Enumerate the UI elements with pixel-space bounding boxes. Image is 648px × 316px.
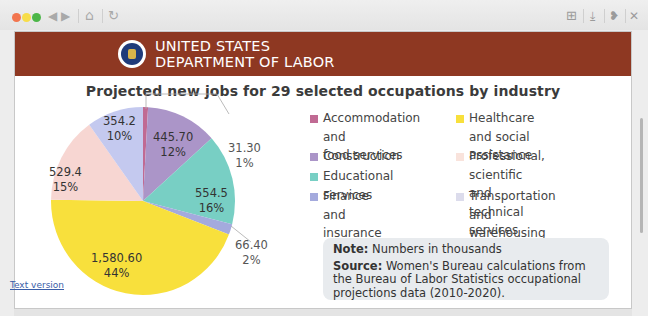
legend-swatch-educational — [310, 173, 318, 181]
slice-label-transportation: 354.2 10% — [103, 114, 136, 144]
reload-icon[interactable]: ↻ — [108, 8, 119, 24]
percent-label: 2% — [235, 253, 268, 268]
page-viewport: UNITED STATES DEPARTMENT OF LABOR Projec… — [14, 31, 632, 309]
browser-window: ◀ ▶ ⌂ ↻ ⊞ ⤓ ❥ ✕ UNITED STATES DEPARTMENT… — [0, 0, 648, 316]
legend-label: Professional, scientific — [469, 147, 545, 184]
text-version-link[interactable]: Text version — [10, 280, 64, 290]
legend-swatch-transportation — [456, 193, 464, 201]
legend-item-finance: Finance and insurance — [323, 187, 382, 243]
download-icon[interactable]: ⤓ — [590, 9, 595, 23]
home-icon[interactable]: ⌂ — [85, 7, 94, 23]
note-label: Note: — [333, 242, 368, 256]
source-line: Source: Women's Bureau calculations from… — [333, 260, 599, 301]
chart-note-box: Note: Numbers in thousands Source: Women… — [323, 238, 609, 300]
slice-label-educational: 554.5 16% — [195, 186, 228, 216]
note-text: Numbers in thousands — [368, 242, 501, 256]
legend-item-transportation: Transportation and warehousing — [469, 187, 556, 243]
legend-label: Finance and — [323, 187, 382, 224]
back-arrow-icon[interactable]: ◀ — [48, 8, 57, 24]
percent-label: 10% — [103, 129, 136, 144]
percent-label: 1% — [228, 156, 261, 171]
window-maximize-button[interactable] — [32, 13, 41, 22]
legend-swatch-professional — [456, 153, 464, 161]
percent-label: 44% — [91, 266, 142, 281]
value-label: 1,580.60 — [91, 251, 142, 266]
value-label: 354.2 — [103, 114, 136, 129]
note-line: Note: Numbers in thousands — [333, 243, 599, 257]
window-bottom-edge — [14, 309, 632, 316]
window-minimize-button[interactable] — [22, 13, 31, 22]
slice-label-healthcare: 1,580.60 44% — [91, 251, 142, 281]
extensions-icon[interactable]: ❥ — [609, 9, 619, 23]
window-close-button[interactable] — [12, 13, 21, 22]
source-label: Source: — [333, 259, 382, 273]
forward-arrow-icon[interactable]: ▶ — [61, 8, 70, 24]
percent-label: 15% — [49, 180, 82, 195]
legend-label: Construction — [323, 147, 399, 166]
slice-label-professional: 529.4 15% — [49, 165, 82, 195]
value-label: 66.40 — [235, 238, 268, 253]
add-tab-icon[interactable]: ⊞ — [566, 9, 577, 23]
legend-label: Accommodation and — [323, 109, 420, 146]
slice-label-accommodation: 31.30 1% — [228, 141, 261, 171]
legend-label: Transportation and — [469, 187, 556, 224]
legend-label: Healthcare and social — [469, 109, 534, 146]
toolbar-divider — [78, 9, 79, 23]
value-label: 529.4 — [49, 165, 82, 180]
legend-item-construction: Construction — [323, 147, 399, 166]
value-label: 445.70 — [153, 130, 193, 145]
value-label: 31.30 — [228, 141, 261, 156]
page-scrollbar[interactable] — [640, 118, 643, 233]
percent-label: 16% — [195, 201, 228, 216]
toolbar-divider — [604, 9, 605, 23]
close-icon[interactable]: ✕ — [629, 9, 639, 23]
legend-swatch-accommodation — [310, 115, 318, 123]
toolbar-divider — [583, 9, 584, 23]
percent-label: 12% — [153, 145, 193, 160]
value-label: 554.5 — [195, 186, 228, 201]
browser-toolbar: ◀ ▶ ⌂ ↻ ⊞ ⤓ ❥ ✕ — [0, 0, 648, 30]
slice-label-construction: 445.70 12% — [153, 130, 193, 160]
legend-swatch-healthcare — [456, 115, 464, 123]
slice-label-finance: 66.40 2% — [235, 238, 268, 268]
legend-swatch-finance — [310, 193, 318, 201]
toolbar-divider — [625, 9, 626, 23]
legend-swatch-construction — [310, 153, 318, 161]
toolbar-divider — [102, 9, 103, 23]
